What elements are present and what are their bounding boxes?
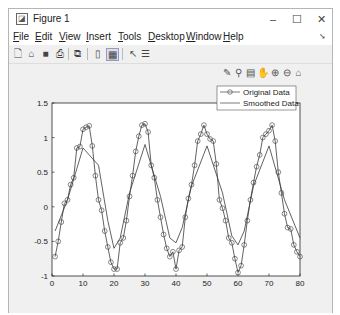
title-bar: ◪ Figure 1 – ☐ ✕ (9, 9, 332, 29)
figure-canvas (9, 64, 332, 313)
figure-window: ◪ Figure 1 – ☐ ✕ File Edit View Insert T… (8, 8, 333, 313)
menu-bar: File Edit View Insert Tools Desktop Wind… (9, 29, 332, 45)
menu-help[interactable]: Help (223, 31, 244, 42)
open-file-icon[interactable]: ⌂ (26, 48, 37, 59)
menu-window[interactable]: Window (186, 31, 222, 42)
menu-file[interactable]: File (13, 31, 29, 42)
toolbar-separator (87, 48, 88, 60)
zoom-in-icon[interactable]: ⊕ (269, 67, 280, 78)
brush-icon[interactable]: ✎ (221, 67, 232, 78)
minimize-button[interactable]: – (261, 11, 285, 27)
zoom-out-icon[interactable]: ⊖ (281, 67, 292, 78)
toolbar-overflow-icon[interactable]: ➘ (319, 32, 326, 41)
toolbar-separator (68, 48, 69, 60)
pan-hand-icon[interactable]: ✋ (257, 67, 268, 78)
home-icon[interactable]: ⌂ (293, 67, 304, 78)
menu-view[interactable]: View (59, 31, 81, 42)
menu-desktop[interactable]: Desktop (148, 31, 185, 42)
new-figure-icon[interactable]: 🗋 (12, 48, 23, 59)
matlab-figure-icon: ◪ (16, 13, 28, 25)
insert-legend-icon[interactable]: ☰ (140, 48, 151, 59)
menu-edit[interactable]: Edit (35, 31, 52, 42)
toolbar-separator (122, 48, 123, 60)
menu-tools[interactable]: Tools (118, 31, 141, 42)
window-title: Figure 1 (33, 13, 70, 24)
figure-toolbar: 🗋 ⌂ ■ ⎙ ⧉ ▯ ▦ ↖ ☰ (9, 45, 332, 64)
print-icon[interactable]: ⎙ (54, 48, 65, 59)
hide-plot-tools-icon[interactable]: ▯ (92, 48, 103, 59)
save-icon[interactable]: ■ (40, 48, 51, 59)
menu-insert[interactable]: Insert (86, 31, 111, 42)
show-plot-tools-icon[interactable]: ▦ (106, 48, 119, 61)
export-icon[interactable]: ▤ (245, 67, 256, 78)
close-button[interactable]: ✕ (309, 11, 333, 27)
maximize-button[interactable]: ☐ (285, 11, 309, 27)
edit-plot-arrow-icon[interactable]: ↖ (127, 48, 138, 59)
data-tips-icon[interactable]: ⚲ (233, 67, 244, 78)
print-preview-icon[interactable]: ⧉ (72, 48, 83, 59)
